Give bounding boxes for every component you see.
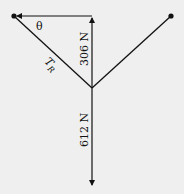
angle-label: θ: [36, 20, 43, 33]
svg-text:TR: TR: [40, 55, 60, 75]
weight-label: 612 N: [78, 113, 91, 147]
left-anchor-dot: [11, 13, 16, 18]
tension-line-right: [92, 16, 171, 88]
force-diagram: θ TR 306 N 612 N: [0, 0, 184, 194]
tension-label: TR: [40, 55, 60, 75]
right-anchor-dot: [168, 13, 173, 18]
diagram-canvas: θ TR 306 N 612 N: [0, 0, 184, 194]
vertical-component-label: 306 N: [78, 32, 91, 66]
